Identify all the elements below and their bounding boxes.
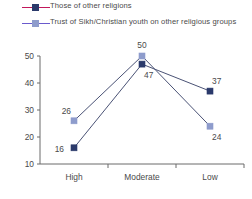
- legend-item-other-religions[interactable]: Those of other religions: [22, 1, 132, 13]
- chart-container: Those of other religions Trust of Sikh/C…: [0, 0, 252, 199]
- x-axis-group: HighModerateLow: [40, 164, 244, 182]
- x-axis-category-label: Moderate: [124, 172, 160, 182]
- legend-label-trust-sikh-christian: Trust of Sikh/Christian youth on other r…: [50, 17, 236, 26]
- legend-label-other-religions: Those of other religions: [50, 1, 132, 10]
- legend-marker-trust-sikh-christian: [32, 20, 39, 27]
- legend-item-trust-sikh-christian[interactable]: Trust of Sikh/Christian youth on other r…: [22, 17, 236, 29]
- data-point-value-label: 16: [55, 144, 65, 154]
- y-axis-tick-label: 40: [25, 78, 35, 88]
- x-axis-category-label: Low: [202, 172, 218, 182]
- series-group: [71, 53, 213, 151]
- chart-svg: 1020304050 HighModerateLow 164737265024: [0, 42, 252, 199]
- series-line: [74, 64, 210, 148]
- data-point-value-label: 37: [212, 76, 222, 86]
- legend-key-other-religions: [22, 2, 50, 13]
- data-point-value-label: 24: [212, 132, 222, 142]
- x-axis-category-label: High: [65, 172, 83, 182]
- y-axis-tick-label: 10: [25, 159, 35, 169]
- y-axis-group: 1020304050: [25, 51, 40, 169]
- data-point-marker[interactable]: [71, 145, 77, 151]
- y-axis-tick-label: 50: [25, 51, 35, 61]
- data-point-marker[interactable]: [207, 88, 213, 94]
- data-point-marker[interactable]: [207, 123, 213, 129]
- data-point-marker[interactable]: [71, 118, 77, 124]
- chart-plot-area: 1020304050 HighModerateLow 164737265024: [0, 42, 252, 199]
- data-point-value-label: 50: [137, 42, 147, 50]
- value-label-group: 164737265024: [55, 42, 222, 154]
- data-point-value-label: 47: [144, 70, 154, 80]
- legend-marker-other-religions: [32, 4, 39, 11]
- y-axis-tick-label: 30: [25, 105, 35, 115]
- legend-key-trust-sikh-christian: [22, 18, 50, 29]
- chart-legend: Those of other religions Trust of Sikh/C…: [0, 0, 252, 42]
- data-point-value-label: 26: [62, 106, 72, 116]
- data-point-marker[interactable]: [139, 53, 145, 59]
- data-point-marker[interactable]: [139, 61, 145, 67]
- y-axis-tick-label: 20: [25, 132, 35, 142]
